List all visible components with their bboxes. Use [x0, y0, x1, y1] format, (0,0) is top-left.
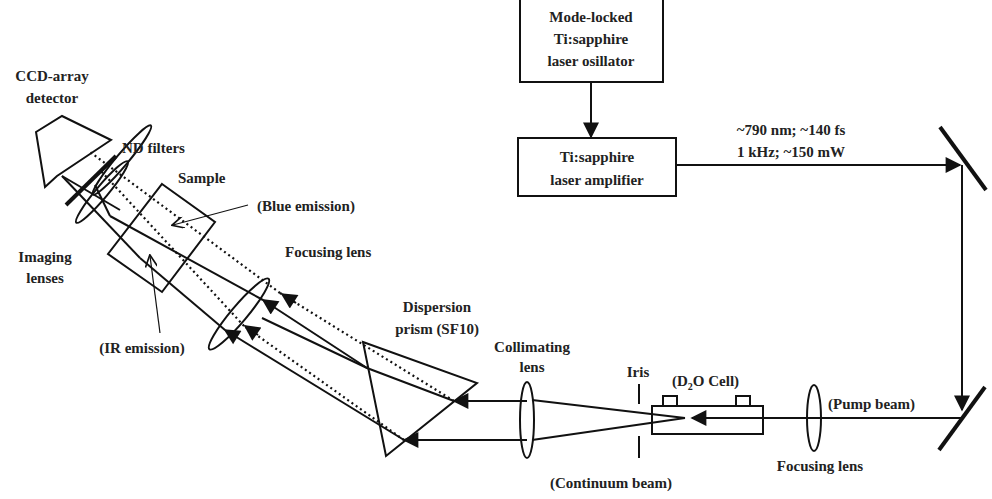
oscillator-label-line3: laser osillator — [548, 53, 635, 69]
ir-ray-lower-to-detector — [62, 176, 140, 258]
oscillator-label-line1: Mode-locked — [549, 9, 633, 25]
upper-ir-ray — [263, 300, 367, 368]
d2o-cell-label: (D2O Cell) — [672, 373, 739, 392]
prism-label-line2: prism (SF10) — [395, 321, 479, 338]
blue-emission-pointer — [173, 205, 248, 225]
d2o-cell — [652, 396, 763, 434]
blue-ray-lower-sample — [100, 170, 244, 326]
prism-label-line1: Dispersion — [403, 299, 472, 315]
blue-emission-label: (Blue emission) — [257, 198, 355, 215]
dispersion-prism — [363, 342, 477, 456]
oscillator-box: Mode-locked Ti:sapphire laser osillator — [520, 0, 663, 82]
ccd-detector — [36, 116, 111, 187]
amplifier-label-line1: Ti:sapphire — [560, 149, 635, 165]
right-focusing-lens-label: Focusing lens — [777, 458, 863, 474]
collimating-lens-label-line1: Collimating — [494, 339, 570, 355]
continuum-beam-label: (Continuum beam) — [550, 475, 672, 492]
beam-spec-wavelength-duration: ~790 nm; ~140 fs — [737, 122, 846, 138]
sample-label: Sample — [178, 170, 226, 186]
beam-spec-rate-power: 1 kHz; ~150 mW — [737, 144, 845, 160]
ccd-label-line1: CCD-array — [15, 68, 89, 84]
amplifier-label-line2: laser amplifier — [550, 172, 644, 188]
ir-emission-label: (IR emission) — [99, 340, 184, 357]
iris-label: Iris — [627, 364, 650, 380]
collimating-lens — [520, 382, 534, 458]
oscillator-label-line2: Ti:sapphire — [554, 31, 629, 47]
collimating-lens-label-line2: lens — [519, 359, 544, 375]
ccd-label-line2: detector — [26, 90, 79, 106]
pump-beam-label: (Pump beam) — [828, 396, 915, 413]
ir-ray-lower-sample — [140, 258, 225, 330]
imaging-lenses-label-line2: lenses — [26, 270, 64, 286]
optical-setup-diagram: Mode-locked Ti:sapphire laser osillator … — [0, 0, 992, 499]
imaging-lenses-label-line1: Imaging — [18, 249, 72, 265]
lower-blue-arrow — [245, 326, 258, 335]
amplifier-box: Ti:sapphire laser amplifier — [518, 138, 676, 196]
nd-filters-label: ND filters — [122, 140, 185, 156]
upper-blue-arrow — [282, 294, 296, 303]
ir-emission-pointer — [150, 256, 160, 333]
left-focusing-lens-label: Focusing lens — [285, 244, 371, 260]
